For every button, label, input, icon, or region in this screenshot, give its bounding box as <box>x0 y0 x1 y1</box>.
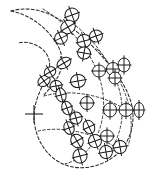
figure-drawing <box>0 0 152 176</box>
figure-canvas: Crescent-shaped region with distributed … <box>0 0 152 176</box>
